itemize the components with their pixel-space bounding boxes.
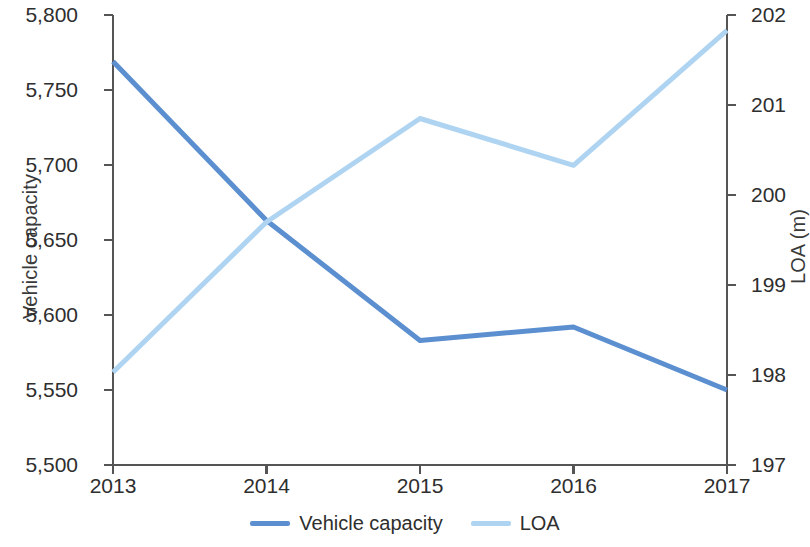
legend-label: Vehicle capacity	[299, 512, 442, 535]
chart-legend: Vehicle capacityLOA	[0, 512, 810, 535]
line-chart: Vehicle capacity LOA (m) 5,5005,5505,600…	[0, 0, 810, 547]
legend-swatch-icon	[250, 521, 290, 526]
plot-area	[0, 0, 810, 547]
series-lines	[113, 30, 727, 390]
series-line-loa	[113, 30, 727, 372]
legend-swatch-icon	[471, 521, 511, 526]
legend-item[interactable]: LOA	[471, 512, 560, 535]
legend-label: LOA	[520, 512, 560, 535]
axis-lines	[113, 15, 727, 465]
axis-ticks	[104, 15, 736, 474]
legend-item[interactable]: Vehicle capacity	[250, 512, 442, 535]
